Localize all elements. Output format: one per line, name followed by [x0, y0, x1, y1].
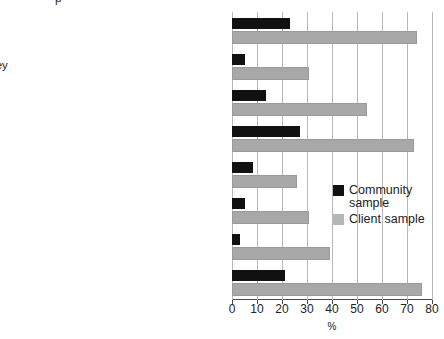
legend: Community sample Client sample — [333, 184, 425, 229]
bar-client — [232, 67, 309, 80]
bar-client — [232, 211, 309, 224]
bar-group — [232, 234, 432, 258]
gridline-80 — [432, 12, 433, 300]
bar-client — [232, 103, 367, 116]
x-tick-label-0: 0 — [229, 302, 236, 316]
legend-label-client: Client sample — [349, 213, 425, 226]
bar-community — [232, 162, 253, 173]
bar-group — [232, 18, 432, 42]
bar-community — [232, 90, 266, 101]
bar-group — [232, 270, 432, 294]
x-tick-label-80: 80 — [425, 302, 438, 316]
x-tick-label-70: 70 — [400, 302, 413, 316]
x-tick-label-10: 10 — [250, 302, 263, 316]
legend-item-community: Community sample — [333, 184, 425, 210]
legend-swatch-client-icon — [333, 214, 344, 225]
bar-group — [232, 54, 432, 78]
bar-chart: p Does not have $500 in emergency saving… — [0, 0, 444, 339]
x-axis-title: % — [328, 321, 337, 332]
bar-community — [232, 234, 240, 245]
bar-client — [232, 175, 297, 188]
bar-client — [232, 283, 422, 296]
plot-area — [232, 12, 432, 300]
bar-client — [232, 247, 330, 260]
legend-item-client: Client sample — [333, 213, 425, 226]
bar-community — [232, 198, 245, 209]
legend-label-community: Community sample — [349, 184, 412, 210]
bar-group — [232, 126, 432, 150]
x-tick-label-50: 50 — [350, 302, 363, 316]
x-tick-label-20: 20 — [275, 302, 288, 316]
x-tick-label-30: 30 — [300, 302, 313, 316]
bar-community — [232, 270, 285, 281]
title-fragment: p — [55, 0, 62, 5]
bar-client — [232, 31, 417, 44]
x-tick-label-40: 40 — [325, 302, 338, 316]
legend-swatch-community-icon — [333, 185, 344, 196]
bar-client — [232, 139, 414, 152]
bar-community — [232, 126, 300, 137]
x-tick-label-60: 60 — [375, 302, 388, 316]
bar-community — [232, 18, 290, 29]
bar-group — [232, 90, 432, 114]
bar-community — [232, 54, 245, 65]
